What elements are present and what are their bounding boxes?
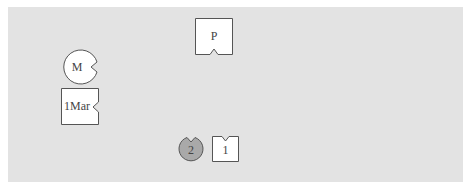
piece-p: P	[195, 18, 233, 55]
piece-2: 2	[178, 136, 204, 162]
piece-1: 1	[212, 136, 239, 162]
piece-label: P	[195, 18, 233, 55]
diagram-canvas: P M 1Mar 2 1	[8, 7, 463, 182]
piece-label: 2	[178, 136, 204, 162]
piece-m: M	[61, 48, 99, 86]
piece-1mar: 1Mar	[61, 88, 99, 125]
piece-label: M	[61, 48, 99, 86]
piece-label: 1	[212, 136, 239, 162]
piece-label: 1Mar	[61, 88, 99, 125]
